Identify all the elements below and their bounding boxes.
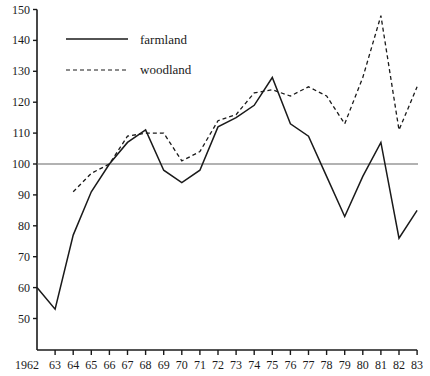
line-chart: 5060708090100110120130140150 19626364656…: [0, 0, 430, 376]
y-tick-label: 150: [12, 3, 30, 17]
legend-item-woodland: woodland: [66, 62, 192, 77]
x-tick-label: 63: [49, 358, 61, 372]
x-tick-label: 82: [393, 358, 405, 372]
x-tick-label: 81: [375, 358, 387, 372]
y-tick-label: 70: [18, 250, 30, 264]
x-tick-label: 64: [67, 358, 79, 372]
series-woodland-line: [73, 16, 417, 192]
x-tick-label: 69: [158, 358, 170, 372]
x-tick-label: 68: [140, 358, 152, 372]
x-tick-label: 79: [339, 358, 351, 372]
x-tick-label: 70: [176, 358, 188, 372]
y-tick-label: 90: [18, 188, 30, 202]
legend-item-farmland: farmland: [66, 32, 187, 47]
y-tick-label: 120: [12, 95, 30, 109]
x-tick-label: 71: [194, 358, 206, 372]
x-tick-label: 78: [321, 358, 333, 372]
y-tick-label: 130: [12, 64, 30, 78]
series-farmland-line: [37, 78, 417, 310]
x-tick-label: 80: [357, 358, 369, 372]
x-tick-label: 65: [85, 358, 97, 372]
x-tick-label: 72: [212, 358, 224, 372]
legend-label-farmland: farmland: [140, 32, 187, 47]
y-axis: 5060708090100110120130140150: [12, 3, 37, 351]
legend: farmland woodland: [66, 32, 192, 77]
y-tick-label: 110: [12, 126, 30, 140]
x-tick-label: 83: [411, 358, 423, 372]
y-tick-label: 50: [18, 312, 30, 326]
x-tick-label: 66: [103, 358, 115, 372]
x-axis: 1962636465666768697071727374757677787980…: [15, 350, 423, 372]
x-tick-label: 67: [122, 358, 134, 372]
x-tick-label: 74: [248, 358, 260, 372]
x-tick-label: 76: [284, 358, 296, 372]
x-tick-label: 77: [303, 358, 315, 372]
x-tick-label: 1962: [15, 358, 39, 372]
legend-label-woodland: woodland: [140, 62, 192, 77]
y-tick-label: 80: [18, 219, 30, 233]
y-tick-label: 100: [12, 157, 30, 171]
y-tick-label: 140: [12, 33, 30, 47]
x-tick-label: 75: [266, 358, 278, 372]
x-tick-label: 73: [230, 358, 242, 372]
y-tick-label: 60: [18, 281, 30, 295]
series-group: [37, 16, 417, 310]
